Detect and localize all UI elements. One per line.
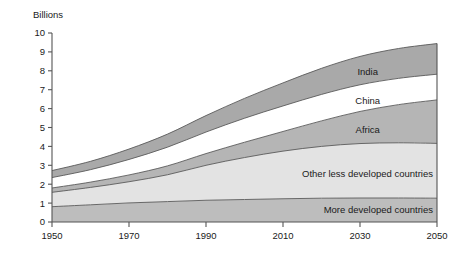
- y-tick-label: 4: [40, 141, 45, 152]
- y-tick-label: 8: [40, 65, 45, 76]
- series-label-india: India: [357, 66, 378, 77]
- y-tick-label: 0: [40, 216, 45, 227]
- series-label-africa: Africa: [356, 124, 381, 135]
- y-tick-label: 5: [40, 122, 45, 133]
- y-axis: 012345678910: [34, 27, 52, 227]
- x-tick-label: 1970: [118, 230, 139, 241]
- y-axis-title: Billions: [33, 9, 63, 20]
- y-tick-label: 10: [34, 27, 45, 38]
- series-label-china: China: [355, 95, 381, 106]
- x-tick-label: 1950: [41, 230, 62, 241]
- series-label-other-less-developed-countries: Other less developed countries: [302, 168, 433, 179]
- series-label-more-developed-countries: More developed countries: [324, 204, 434, 215]
- x-tick-label: 1990: [195, 230, 216, 241]
- y-tick-label: 7: [40, 84, 45, 95]
- x-tick-label: 2010: [272, 230, 293, 241]
- y-tick-label: 2: [40, 179, 45, 190]
- y-tick-label: 9: [40, 46, 45, 57]
- population-projection-chart: 012345678910 195019701990201020302050 Bi…: [0, 0, 464, 258]
- y-tick-label: 1: [40, 198, 45, 209]
- x-tick-label: 2030: [349, 230, 370, 241]
- y-tick-label: 6: [40, 103, 45, 114]
- x-tick-label: 2050: [426, 230, 447, 241]
- y-tick-label: 3: [40, 160, 45, 171]
- chart-canvas: 012345678910 195019701990201020302050 Bi…: [0, 0, 464, 258]
